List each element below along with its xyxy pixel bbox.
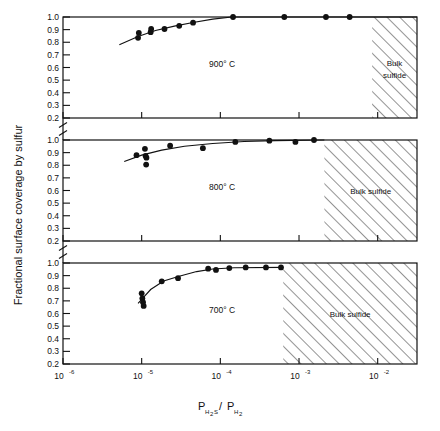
y-tick-label: 0.4 — [47, 88, 59, 98]
x-tick-mantissa: 10 — [133, 371, 143, 381]
x-tick-mantissa: 10 — [369, 371, 379, 381]
data-point — [311, 137, 317, 143]
data-point — [159, 278, 165, 284]
bulk-sulfide-label: Bulk sulfide — [350, 187, 391, 196]
y-tick-label: 0.2 — [47, 236, 59, 246]
panel-temperature-label: 900° C — [209, 59, 235, 69]
x-tick-mantissa: 10 — [212, 371, 222, 381]
data-point — [293, 139, 299, 145]
y-tick-label: 0.7 — [47, 173, 59, 183]
y-tick-label: 0.3 — [47, 100, 59, 110]
y-tick-label: 0.6 — [47, 63, 59, 73]
x-tick-exponent: -4 — [226, 369, 232, 375]
data-point — [226, 265, 232, 271]
x-axis: 10-610-510-410-310-2 — [54, 369, 389, 381]
x-tick-label: 10-5 — [133, 369, 154, 381]
panel-900: 1.00.90.80.70.60.50.40.30.2900° CBulksul… — [47, 12, 417, 140]
panel-frame — [63, 17, 417, 118]
y-tick-label: 0.2 — [47, 359, 59, 369]
x-tick-exponent: -3 — [305, 369, 311, 375]
data-point — [205, 266, 211, 272]
y-tick-label: 0.3 — [47, 346, 59, 356]
x-tick-mantissa: 10 — [54, 371, 64, 381]
y-axis-title: Fractional surface coverage by sulfur — [12, 124, 24, 305]
data-point — [230, 14, 236, 20]
xlabel-sub-h: H — [205, 409, 209, 415]
x-axis-title: PH2S/PH2 — [198, 400, 243, 417]
y-tick-label: 0.5 — [47, 75, 59, 85]
data-point — [167, 143, 173, 149]
data-point — [176, 23, 182, 29]
data-point — [323, 14, 329, 20]
data-point — [232, 139, 238, 145]
data-point — [243, 265, 249, 271]
y-tick-label: 0.3 — [47, 223, 59, 233]
data-point — [142, 146, 148, 152]
x-tick-label: 10-4 — [212, 369, 233, 381]
data-point — [135, 35, 141, 41]
panel-800: 1.00.90.80.70.60.50.40.30.2800° CBulk su… — [47, 135, 417, 263]
y-tick-label: 0.9 — [47, 25, 59, 35]
y-tick-label: 1.0 — [47, 12, 59, 22]
bulk-sulfide-label: Bulk — [387, 59, 404, 68]
data-point — [347, 14, 353, 20]
fit-curve — [138, 267, 283, 303]
x-tick-label: 10-2 — [369, 369, 390, 381]
data-point — [213, 267, 219, 273]
x-tick-exponent: -2 — [384, 369, 390, 375]
y-tick-label: 0.4 — [47, 211, 59, 221]
y-tick-label: 0.7 — [47, 50, 59, 60]
data-point — [266, 138, 272, 144]
panel-group: 1.00.90.80.70.60.50.40.30.2900° CBulksul… — [47, 12, 417, 369]
y-tick-label: 0.8 — [47, 37, 59, 47]
x-tick-mantissa: 10 — [290, 371, 300, 381]
y-tick-label: 0.9 — [47, 271, 59, 281]
data-point — [175, 275, 181, 281]
y-tick-label: 0.4 — [47, 334, 59, 344]
data-point — [281, 14, 287, 20]
data-point — [162, 26, 168, 32]
y-tick-label: 0.6 — [47, 186, 59, 196]
sulfur-coverage-chart: 1.00.90.80.70.60.50.40.30.2900° CBulksul… — [0, 0, 440, 431]
data-point — [134, 152, 140, 158]
xlabel-sub-s: S — [214, 409, 218, 415]
y-tick-label: 0.9 — [47, 148, 59, 158]
panel-700: 1.00.90.80.70.60.50.40.30.2700° CBulk su… — [47, 258, 417, 369]
data-point — [148, 26, 154, 32]
data-point — [190, 20, 196, 26]
y-tick-label: 0.8 — [47, 283, 59, 293]
data-point — [141, 303, 147, 309]
data-point — [136, 30, 142, 36]
data-point — [143, 162, 149, 168]
data-point — [200, 145, 206, 151]
bulk-sulfide-label: sulfide — [383, 71, 407, 80]
y-tick-label: 0.8 — [47, 160, 59, 170]
xlabel-sub2-2: 2 — [239, 411, 243, 417]
y-tick-label: 1.0 — [47, 258, 59, 268]
x-tick-label: 10-3 — [290, 369, 311, 381]
data-point — [144, 155, 150, 161]
xlabel-slash: / — [219, 400, 223, 412]
y-tick-label: 0.5 — [47, 321, 59, 331]
x-tick-exponent: -5 — [148, 369, 154, 375]
y-tick-label: 0.6 — [47, 309, 59, 319]
y-tick-label: 0.7 — [47, 296, 59, 306]
x-tick-label: 10-6 — [54, 369, 75, 381]
data-point — [139, 290, 145, 296]
figure-container: 1.00.90.80.70.60.50.40.30.2900° CBulksul… — [0, 0, 440, 431]
y-tick-label: 0.2 — [47, 113, 59, 123]
panel-temperature-label: 700° C — [209, 305, 235, 315]
x-tick-exponent: -6 — [69, 369, 75, 375]
bulk-sulfide-label: Bulk sulfide — [330, 310, 371, 319]
xlabel-sub2-h: H — [234, 409, 238, 415]
panel-temperature-label: 800° C — [209, 182, 235, 192]
data-point — [263, 265, 269, 271]
bulk-sulfide-region — [372, 17, 417, 118]
y-tick-label: 1.0 — [47, 135, 59, 145]
data-point — [278, 265, 284, 271]
y-tick-label: 0.5 — [47, 198, 59, 208]
